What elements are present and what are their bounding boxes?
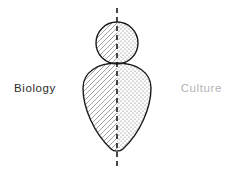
diagram-canvas: Biology Culture [0,0,232,172]
label-culture: Culture [181,83,222,95]
label-biology: Biology [14,83,56,95]
body-right-stipple-fill [117,60,155,156]
